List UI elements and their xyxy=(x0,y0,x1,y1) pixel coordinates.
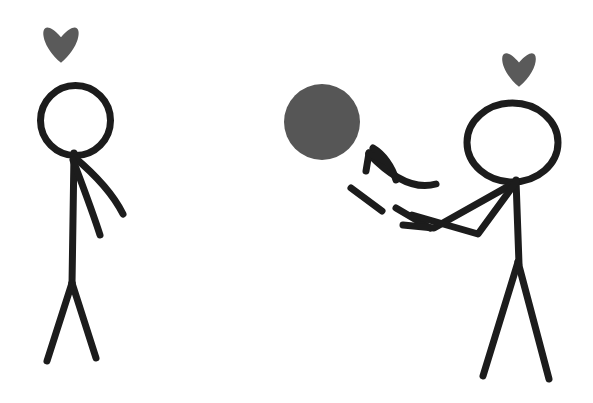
stick-figure-illustration xyxy=(0,0,593,403)
drawing-canvas xyxy=(0,0,593,403)
right-figure-torso xyxy=(516,180,519,264)
ball-shape xyxy=(284,84,360,160)
left-figure-torso xyxy=(72,153,74,285)
